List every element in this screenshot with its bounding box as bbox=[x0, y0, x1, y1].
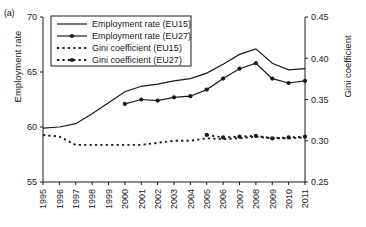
x-tick-label: 1995 bbox=[38, 189, 48, 209]
x-tick-label: 2000 bbox=[120, 189, 130, 209]
y-tick-right-label: 0.45 bbox=[311, 12, 329, 22]
series-marker-employment-rate-eu27- bbox=[303, 79, 307, 83]
series-marker-employment-rate-eu27- bbox=[287, 81, 291, 85]
x-tick-label: 2003 bbox=[169, 189, 179, 209]
figure-panel-a: (a) Employment rate Gini coefficient 556… bbox=[0, 0, 366, 227]
x-axis-ticks: 1995199619971998199920002001200220032004… bbox=[38, 182, 310, 209]
y-axis-right-ticks: 0.250.300.350.400.45 bbox=[305, 12, 329, 187]
x-tick-label: 1999 bbox=[104, 189, 114, 209]
series-marker-employment-rate-eu27- bbox=[237, 67, 241, 71]
y-tick-left-label: 70 bbox=[27, 12, 37, 22]
legend-label-0: Employment rate (EU15) bbox=[92, 19, 191, 29]
chart-legend: Employment rate (EU15)Employment rate (E… bbox=[51, 16, 191, 66]
series-marker-employment-rate-eu27- bbox=[172, 95, 176, 99]
x-tick-label: 1997 bbox=[71, 189, 81, 209]
series-marker-employment-rate-eu27- bbox=[139, 97, 143, 101]
series-marker-gini-coefficient-eu27- bbox=[270, 136, 274, 140]
x-tick-label: 1998 bbox=[87, 189, 97, 209]
x-tick-label: 2011 bbox=[300, 189, 310, 208]
y-tick-left-label: 60 bbox=[27, 122, 37, 132]
series-marker-employment-rate-eu27- bbox=[270, 77, 274, 81]
x-tick-label: 2004 bbox=[186, 189, 196, 209]
legend-swatch-marker-3 bbox=[70, 58, 74, 62]
y-tick-right-label: 0.35 bbox=[311, 95, 329, 105]
x-tick-label: 2006 bbox=[218, 189, 228, 209]
legend-swatch-marker-1 bbox=[70, 34, 74, 38]
series-marker-gini-coefficient-eu27- bbox=[254, 134, 258, 138]
series-marker-employment-rate-eu27- bbox=[123, 102, 127, 106]
series-marker-gini-coefficient-eu27- bbox=[237, 135, 241, 139]
x-tick-label: 2010 bbox=[284, 189, 294, 209]
x-tick-label: 1996 bbox=[55, 189, 65, 209]
series-marker-employment-rate-eu27- bbox=[205, 88, 209, 92]
legend-label-3: Gini coefficient (EU27) bbox=[92, 55, 182, 65]
y-tick-left-label: 65 bbox=[27, 67, 37, 77]
series-marker-gini-coefficient-eu27- bbox=[205, 133, 209, 137]
legend-label-1: Employment rate (EU27) bbox=[92, 31, 191, 41]
chart-plot: 55606570 0.250.300.350.400.45 1995199619… bbox=[0, 0, 366, 227]
series-marker-gini-coefficient-eu27- bbox=[287, 135, 291, 139]
x-tick-label: 2001 bbox=[137, 189, 147, 209]
legend-label-2: Gini coefficient (EU15) bbox=[92, 43, 182, 53]
series-marker-employment-rate-eu27- bbox=[254, 61, 258, 65]
x-tick-label: 2002 bbox=[153, 189, 163, 209]
x-tick-label: 2008 bbox=[251, 189, 261, 209]
y-axis-left-ticks: 55606570 bbox=[27, 12, 43, 187]
series-marker-employment-rate-eu27- bbox=[221, 77, 225, 81]
series-marker-employment-rate-eu27- bbox=[188, 94, 192, 98]
x-tick-label: 2009 bbox=[268, 189, 278, 209]
x-tick-label: 2007 bbox=[235, 189, 245, 209]
series-line-gini-coefficient-eu15- bbox=[43, 135, 305, 145]
series-marker-employment-rate-eu27- bbox=[156, 99, 160, 103]
series-marker-gini-coefficient-eu27- bbox=[221, 135, 225, 139]
x-tick-label: 2005 bbox=[202, 189, 212, 209]
y-tick-right-label: 0.30 bbox=[311, 136, 329, 146]
y-tick-right-label: 0.25 bbox=[311, 177, 329, 187]
y-tick-right-label: 0.40 bbox=[311, 54, 329, 64]
y-tick-left-label: 55 bbox=[27, 177, 37, 187]
series-marker-gini-coefficient-eu27- bbox=[303, 135, 307, 139]
